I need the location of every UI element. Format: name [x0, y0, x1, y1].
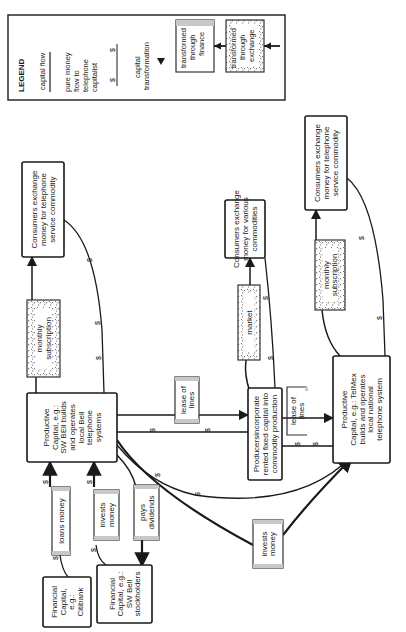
node-label-line: money [107, 503, 116, 527]
dollar-marker: $ [376, 316, 383, 320]
node-label-line: loans money [57, 498, 66, 543]
dollar-marker: $ [194, 492, 201, 496]
svg-text:$: $ [109, 78, 116, 82]
node-consumers-various: Consumers exchangemoney for variouscommo… [225, 190, 265, 268]
dollar-marker: $ [358, 236, 365, 240]
svg-text:flow to: flow to [72, 70, 81, 92]
node-sw-bell-stockholders: FinancialCapital, e.g.:SW Bellstockholde… [97, 565, 152, 623]
dollar-marker: $ [95, 356, 102, 360]
dollar-marker: $ [262, 296, 269, 300]
dollar-marker: $ [86, 480, 93, 484]
node-label-line: lines [187, 392, 196, 408]
node-label-line: money [268, 532, 277, 556]
node-label-line: subscription [44, 317, 53, 360]
svg-text:transformed: transformed [229, 28, 238, 68]
dollar-marker: $ [294, 442, 301, 446]
node-label-line: service commodity [331, 130, 340, 196]
node-label-line: commodity production [270, 395, 279, 473]
flow-invests-2-to-telmex [283, 458, 352, 535]
node-monthly-subscription-2: monthlysubscription [315, 240, 345, 310]
node-consumers-telephone-1: Consumers exchangemoney for telephoneser… [22, 162, 64, 257]
legend-capital-flow-label: capital flow [38, 52, 47, 90]
legend: LEGEND capital flow pure money flow to t… [8, 15, 285, 100]
node-sw-bell-productive: ProductiveCapital, e.g.:SW BEll buildsan… [27, 393, 117, 462]
dollar-marker: $ [149, 428, 156, 432]
node-consumers-telephone-2: Consumers exchangemoney for telephoneser… [305, 116, 347, 210]
node-lease-of-lines-2: lease oflines [287, 387, 308, 435]
money-flow-consumers-2-to-telmex [347, 178, 385, 356]
node-label-line: lines [297, 403, 306, 419]
money-flow-consumers-various-to-producers [265, 258, 275, 388]
capital-flow-diagram: LEGEND capital flow pure money flow to t… [0, 0, 406, 632]
svg-text:exchange: exchange [247, 29, 256, 62]
svg-text:transformed: transformed [179, 28, 188, 68]
money-flow-citibank-to-loans [60, 555, 68, 577]
node-producers: Producersincorporaterented fixed capital… [248, 388, 282, 480]
dollar-marker: $ [267, 356, 274, 360]
node-label-line: market [245, 310, 254, 335]
svg-text:$: $ [109, 48, 116, 52]
node-label-line: dividends [147, 496, 156, 530]
dollar-marker: $ [42, 480, 49, 484]
node-label-line: stockholders [133, 572, 142, 617]
node-loans-money: loans money [52, 487, 70, 555]
node-label-line: service commodity [48, 176, 57, 242]
svg-text:transformation: transformation [142, 42, 151, 90]
nodes: Consumers exchangemoney for telephoneser… [22, 116, 390, 627]
money-flow-stockholders-to-invests [96, 545, 106, 565]
svg-text:capital: capital [133, 56, 142, 78]
node-label-line: Citibank [76, 587, 85, 617]
dollar-marker: $ [204, 428, 211, 432]
dollar-marker: $ [94, 321, 101, 325]
node-label-line: systems [94, 413, 103, 442]
svg-text:through: through [238, 35, 247, 60]
svg-text:through: through [188, 35, 197, 60]
svg-text:pure money: pure money [63, 52, 72, 92]
node-label-line: commodities [250, 207, 259, 252]
dollar-marker: $ [312, 442, 319, 446]
node-telmex-productive: ProductiveCapital, e.g.: TelMexbuilds an… [333, 356, 390, 463]
dollar-marker: $ [52, 556, 59, 560]
node-label-line: telephone system [375, 378, 384, 441]
node-label-line: subscription [330, 254, 339, 297]
node-lease-of-lines-1: lease oflines [175, 377, 199, 423]
node-invests-money-2: investsmoney [253, 520, 283, 568]
legend-title: LEGEND [17, 58, 26, 92]
node-invests-money-1: investsmoney [94, 490, 119, 540]
flow-telmex-to-subscription [322, 310, 340, 356]
flow-producers-to-market [246, 360, 251, 392]
dollar-marker: $ [90, 548, 97, 552]
svg-text:telephone: telephone [81, 59, 90, 92]
connectors [32, 178, 385, 577]
dollar-marker: $ [86, 258, 93, 262]
node-monthly-subscription-1: monthlysubscription [27, 300, 60, 377]
money-flow-consumers-to-swbell [64, 220, 104, 393]
node-market: market [238, 285, 260, 360]
dollar-marker: $ [154, 473, 161, 477]
svg-text:capitalist: capitalist [90, 62, 99, 92]
node-pays-dividends: paysdividends [134, 485, 159, 540]
node-citibank: FinancialCapital,e.g.:Citibank [43, 577, 91, 627]
svg-text:finance: finance [197, 32, 206, 56]
